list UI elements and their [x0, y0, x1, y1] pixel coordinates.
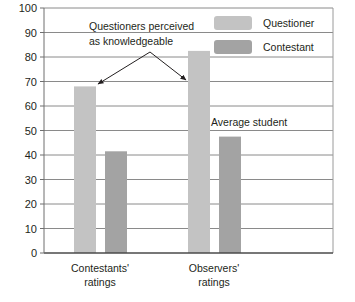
y-tick-label-10: 10 [25, 223, 37, 235]
bar-contestant-observers-ratings [219, 137, 241, 253]
legend-label-questioner: Questioner [263, 17, 315, 29]
y-tick-label-90: 90 [25, 27, 37, 39]
y-tick-marks [40, 8, 44, 253]
x-label-observers-ratings-line1: Observers' [189, 262, 239, 274]
y-tick-label-0: 0 [31, 247, 37, 259]
bar-questioner-observers-ratings [188, 51, 210, 253]
y-tick-label-40: 40 [25, 149, 37, 161]
y-tick-label-50: 50 [25, 125, 37, 137]
chart-canvas: 100 90 80 70 60 50 40 30 20 10 0 Contest… [0, 0, 355, 302]
bar-chart: 100 90 80 70 60 50 40 30 20 10 0 Contest… [0, 0, 355, 302]
y-tick-label-70: 70 [25, 76, 37, 88]
y-tick-label-100: 100 [19, 2, 37, 14]
y-tick-label-80: 80 [25, 51, 37, 63]
annotation-note1-line2: as knowledgeable [89, 35, 173, 47]
annotation-note2-line1: Average student [211, 116, 287, 128]
y-tick-label-20: 20 [25, 198, 37, 210]
annotation-note1-line1: Questioners perceived [89, 20, 194, 32]
x-axis-category-labels: Contestants' ratings Observers' ratings [71, 262, 239, 288]
x-label-observers-ratings-line2: ratings [198, 276, 230, 288]
y-axis-tick-labels: 100 90 80 70 60 50 40 30 20 10 0 [19, 2, 37, 259]
bar-questioner-contestants-ratings [74, 86, 96, 253]
annotation-average-student: Average student [211, 116, 287, 128]
bar-contestant-contestants-ratings [105, 151, 127, 253]
x-label-contestants-ratings-line1: Contestants' [71, 262, 129, 274]
legend-swatch-contestant [214, 40, 252, 54]
legend-swatch-questioner [214, 16, 252, 30]
y-tick-label-60: 60 [25, 100, 37, 112]
y-tick-label-30: 30 [25, 174, 37, 186]
x-label-contestants-ratings-line2: ratings [84, 276, 116, 288]
legend-label-contestant: Contestant [263, 41, 314, 53]
